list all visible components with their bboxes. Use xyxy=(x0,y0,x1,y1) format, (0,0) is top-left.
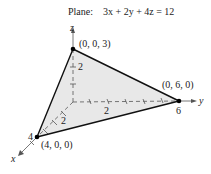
x-axis-label: x xyxy=(10,153,16,164)
vertex-y-intercept xyxy=(177,99,182,104)
plane-equation: 3x + 2y + 4z = 12 xyxy=(103,6,174,17)
vertex-label-x: (4, 0, 0) xyxy=(41,139,73,151)
vertex-label-y: (0, 6, 0) xyxy=(162,79,194,91)
y-axis-label: y xyxy=(198,95,204,106)
z-axis-label: z xyxy=(69,22,74,33)
x-tick-label-end: 4 xyxy=(28,131,33,142)
plane-intercepts-diagram: Plane: 3x + 2y + 4z = 12 z y x (0, 0, 3)… xyxy=(0,0,211,174)
z-tick-label: 2 xyxy=(78,61,83,72)
y-arrow-icon xyxy=(191,99,197,103)
y-tick-label-mid: 2 xyxy=(104,105,109,116)
vertex-label-z: (0, 0, 3) xyxy=(79,38,111,50)
title-prefix: Plane: xyxy=(68,6,93,17)
vertex-x-intercept xyxy=(35,135,40,140)
plane-triangle xyxy=(37,49,179,137)
vertex-z-intercept xyxy=(71,47,76,52)
y-tick-label-end: 6 xyxy=(176,105,181,116)
x-tick-label-mid: 2 xyxy=(61,115,66,126)
